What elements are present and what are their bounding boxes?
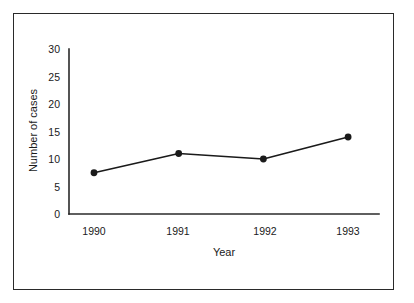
y-tick-label-30: 30 <box>36 44 60 55</box>
figure-border: 30 25 20 15 10 5 0 1990 1991 1992 1993 N… <box>13 13 394 290</box>
data-series-line <box>94 137 348 173</box>
y-tick-label-15: 15 <box>36 126 60 137</box>
chart-plot-area: 30 25 20 15 10 5 0 1990 1991 1992 1993 N… <box>14 14 395 291</box>
y-tick-label-25: 25 <box>36 71 60 82</box>
data-point-1990 <box>91 169 98 176</box>
data-point-markers <box>91 134 352 177</box>
data-point-1992 <box>260 156 267 163</box>
x-tick-label-1990: 1990 <box>82 226 105 237</box>
x-tick-label-1992: 1992 <box>253 226 276 237</box>
x-tick-label-1991: 1991 <box>166 226 189 237</box>
y-tick-label-10: 10 <box>36 154 60 165</box>
y-axis-title: Number of cases <box>28 76 39 186</box>
x-axis-title: Year <box>69 247 379 258</box>
y-tick-label-20: 20 <box>36 99 60 110</box>
y-tick-label-5: 5 <box>36 181 60 192</box>
data-point-1993 <box>345 134 352 141</box>
figure-root: 30 25 20 15 10 5 0 1990 1991 1992 1993 N… <box>0 0 414 303</box>
y-tick-label-0: 0 <box>36 209 60 220</box>
x-tick-label-1993: 1993 <box>336 226 359 237</box>
data-point-1991 <box>175 150 182 157</box>
